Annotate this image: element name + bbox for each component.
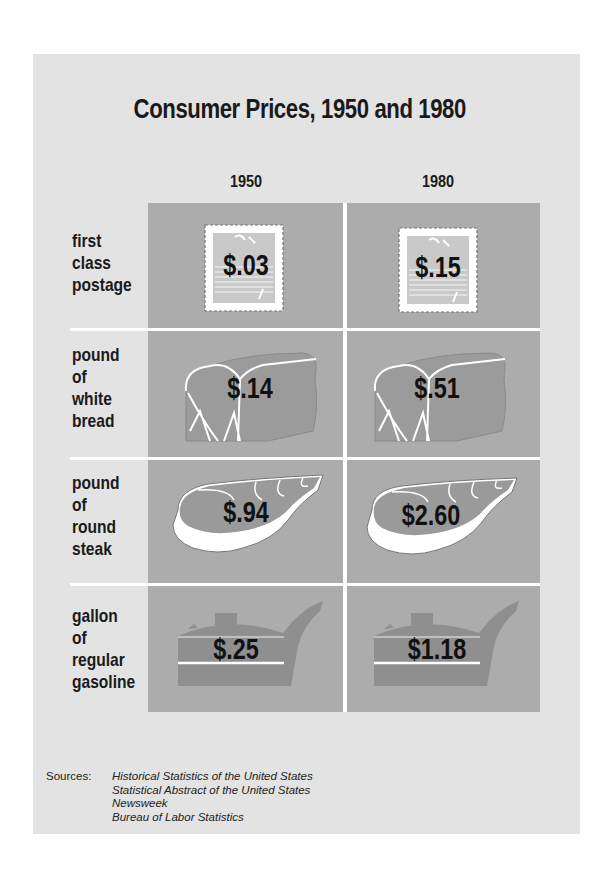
label-line: round xyxy=(72,516,120,538)
label-line: white xyxy=(72,388,120,410)
cell-gasoline-1950: $.25 xyxy=(148,586,343,711)
cell-gasoline-1980: $1.18 xyxy=(347,586,542,711)
page-title: Consumer Prices, 1950 and 1980 xyxy=(54,94,545,125)
price-postage-1950: $.03 xyxy=(199,248,293,282)
label-line: of xyxy=(72,627,135,649)
cell-bread-1980: $.51 xyxy=(347,331,542,456)
row-label-steak: pound of round steak xyxy=(72,472,120,560)
price-steak-1950: $.94 xyxy=(199,495,293,529)
price-gasoline-1950: $.25 xyxy=(189,632,283,666)
price-bread-1950: $.14 xyxy=(203,371,297,405)
cell-steak-1950: $.94 xyxy=(148,460,343,585)
label-line: gasoline xyxy=(72,671,135,693)
label-line: gallon xyxy=(72,605,135,627)
label-line: class xyxy=(72,252,132,274)
label-line: pound xyxy=(72,344,120,366)
sources-label: Sources: xyxy=(46,770,91,784)
cell-steak-1980: $2.60 xyxy=(347,460,542,585)
column-header-1980: 1980 xyxy=(413,172,464,192)
source-item: Newsweek xyxy=(112,797,313,811)
price-bread-1980: $.51 xyxy=(390,371,484,405)
source-item: Bureau of Labor Statistics xyxy=(112,811,313,825)
row-label-bread: pound of white bread xyxy=(72,344,120,432)
label-line: pound xyxy=(72,472,120,494)
cell-postage-1980: $.15 xyxy=(347,203,542,328)
source-item: Historical Statistics of the United Stat… xyxy=(112,770,313,784)
cell-postage-1950: $.03 xyxy=(148,203,343,328)
price-gasoline-1980: $1.18 xyxy=(390,632,484,666)
label-line: bread xyxy=(72,410,120,432)
sources-list: Historical Statistics of the United Stat… xyxy=(112,770,313,824)
label-line: of xyxy=(72,494,120,516)
label-line: first xyxy=(72,230,132,252)
label-line: postage xyxy=(72,274,132,296)
row-label-gasoline: gallon of regular gasoline xyxy=(72,605,135,693)
column-header-1950: 1950 xyxy=(221,172,272,192)
price-steak-1980: $2.60 xyxy=(384,498,478,532)
price-postage-1980: $.15 xyxy=(391,250,485,284)
label-line: steak xyxy=(72,538,120,560)
cell-bread-1950: $.14 xyxy=(148,331,343,456)
label-line: of xyxy=(72,366,120,388)
label-line: regular xyxy=(72,649,135,671)
row-label-postage: first class postage xyxy=(72,230,132,296)
source-item: Statistical Abstract of the United State… xyxy=(112,784,313,798)
